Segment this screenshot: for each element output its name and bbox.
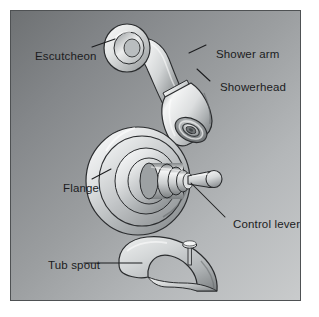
callout-label-control-lever: Control lever (233, 219, 300, 231)
leader-showerhead (197, 69, 210, 81)
callout-label-tub-spout: Tub spout (48, 260, 100, 272)
tub-spout-graphic (119, 237, 217, 291)
leader-shower-arm (189, 45, 206, 53)
callout-label-flange: Flange (63, 183, 99, 195)
callout-label-shower-arm: Shower arm (216, 49, 280, 61)
valve-assembly-graphic (86, 127, 222, 235)
illustration-panel: Escutcheon Shower arm Showerhead Flange … (10, 10, 301, 301)
shower-assembly-graphic (104, 24, 212, 148)
callout-label-escutcheon: Escutcheon (35, 51, 97, 63)
leader-control-lever (191, 183, 225, 217)
callout-label-showerhead: Showerhead (220, 82, 286, 94)
figure-root: Escutcheon Shower arm Showerhead Flange … (0, 0, 319, 317)
escutcheon-graphic (104, 24, 150, 72)
